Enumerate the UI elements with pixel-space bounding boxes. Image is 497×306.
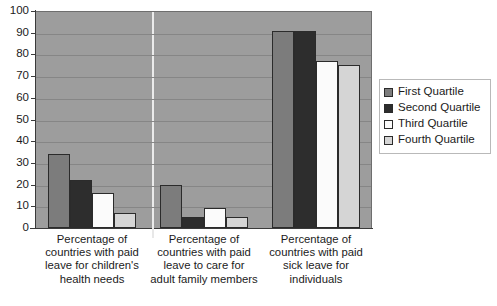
gridline — [36, 34, 371, 35]
legend-item[interactable]: Second Quartile — [384, 100, 487, 116]
chart-legend: First QuartileSecond QuartileThird Quart… — [379, 79, 491, 154]
y-tick-mark — [31, 185, 36, 186]
y-tick-mark — [31, 33, 36, 34]
y-tick-label: 20 — [3, 179, 29, 191]
legend-item[interactable]: First Quartile — [384, 84, 487, 100]
y-tick-label: 40 — [3, 135, 29, 147]
legend-swatch-icon — [384, 88, 393, 97]
bar — [70, 180, 92, 228]
bar — [182, 217, 204, 228]
y-tick-mark — [31, 11, 36, 12]
x-axis-label: Percentage of countries with paid leave … — [150, 233, 258, 286]
legend-swatch-icon — [384, 120, 393, 129]
bar — [92, 193, 114, 228]
y-tick-mark — [31, 76, 36, 77]
legend-label: Third Quartile — [398, 118, 468, 130]
legend-item[interactable]: Third Quartile — [384, 116, 487, 132]
bar — [204, 208, 226, 228]
legend-label: Fourth Quartile — [398, 134, 475, 146]
bar — [160, 185, 182, 228]
y-tick-mark — [31, 228, 36, 229]
x-axis-label: Percentage of countries with paid leave … — [38, 233, 146, 286]
y-tick-label: 60 — [3, 92, 29, 104]
y-tick-label: 10 — [3, 200, 29, 212]
y-tick-label: 30 — [3, 157, 29, 169]
y-tick-label: 70 — [3, 70, 29, 82]
x-axis-line — [30, 228, 373, 229]
legend-label: Second Quartile — [398, 102, 480, 114]
bar — [316, 61, 338, 228]
y-tick-label: 50 — [3, 114, 29, 126]
y-tick-mark — [31, 120, 36, 121]
y-tick-mark — [31, 206, 36, 207]
y-tick-label: 0 — [3, 222, 29, 234]
bar — [226, 217, 248, 228]
y-tick-mark — [31, 163, 36, 164]
x-axis-label: Percentage of countries with paid sick l… — [262, 233, 370, 286]
legend-item[interactable]: Fourth Quartile — [384, 132, 487, 148]
bar — [48, 154, 70, 228]
legend-swatch-icon — [384, 136, 393, 145]
gridline — [36, 55, 371, 56]
y-tick-label: 80 — [3, 48, 29, 60]
bar — [272, 31, 294, 228]
x-axis-category-labels: Percentage of countries with paid leave … — [36, 233, 372, 306]
legend-swatch-icon — [384, 104, 393, 113]
bar — [114, 213, 136, 228]
y-tick-mark — [31, 54, 36, 55]
bar — [294, 31, 316, 228]
y-axis: 0102030405060708090100 — [0, 0, 29, 306]
legend-label: First Quartile — [398, 86, 464, 98]
y-tick-mark — [31, 98, 36, 99]
plot-area — [36, 11, 372, 228]
y-tick-mark — [31, 141, 36, 142]
bar-chart: 0102030405060708090100 Percentage of cou… — [0, 0, 497, 306]
bar — [338, 65, 360, 228]
y-tick-label: 90 — [3, 27, 29, 39]
y-tick-label: 100 — [3, 5, 29, 17]
